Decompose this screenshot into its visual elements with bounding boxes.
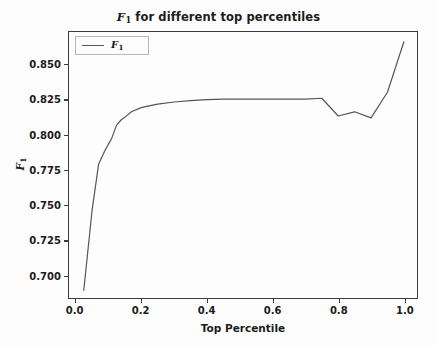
title-math-f: F bbox=[117, 10, 125, 24]
x-tick-mark bbox=[405, 299, 406, 303]
x-tick-label: 1.0 bbox=[380, 305, 430, 316]
data-line-svg bbox=[69, 32, 417, 298]
series-line-f1 bbox=[84, 42, 404, 291]
x-tick-label: 0.6 bbox=[248, 305, 298, 316]
y-tick-label: 0.825 bbox=[5, 94, 61, 105]
x-tick-mark bbox=[75, 299, 76, 303]
title-rest: for different top percentiles bbox=[131, 10, 320, 24]
x-tick-mark bbox=[207, 299, 208, 303]
x-tick-label: 0.4 bbox=[182, 305, 232, 316]
x-axis-label: Top Percentile bbox=[68, 322, 418, 334]
chart-title: F1 for different top percentiles bbox=[0, 10, 437, 25]
y-axis-label: F1 bbox=[14, 157, 28, 170]
x-tick-mark bbox=[339, 299, 340, 303]
x-tick-label: 0.0 bbox=[50, 305, 100, 316]
legend[interactable]: F1 bbox=[75, 36, 149, 55]
y-tick-label: 0.850 bbox=[5, 59, 61, 70]
plot-area bbox=[68, 31, 418, 299]
x-tick-mark bbox=[273, 299, 274, 303]
y-tick-label: 0.750 bbox=[5, 200, 61, 211]
x-tick-label: 0.2 bbox=[116, 305, 166, 316]
legend-math-sub: 1 bbox=[118, 43, 123, 52]
figure-canvas: F1 for different top percentiles 0.7000.… bbox=[0, 0, 437, 348]
legend-entry-label: F1 bbox=[111, 39, 123, 52]
x-tick-mark bbox=[141, 299, 142, 303]
ylabel-math-sub: 1 bbox=[18, 157, 27, 162]
ylabel-math-f: F bbox=[14, 163, 26, 170]
legend-line-swatch bbox=[82, 45, 104, 46]
x-tick-label: 0.8 bbox=[314, 305, 364, 316]
y-tick-label: 0.725 bbox=[5, 235, 61, 246]
y-tick-label: 0.800 bbox=[5, 129, 61, 140]
y-tick-label: 0.700 bbox=[5, 270, 61, 281]
